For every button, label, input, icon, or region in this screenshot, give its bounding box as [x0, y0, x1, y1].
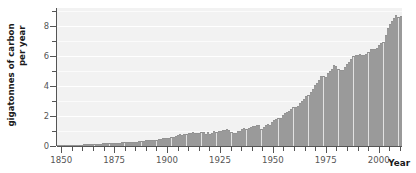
y-tick	[50, 146, 56, 147]
x-tick-label: 1900	[156, 155, 178, 165]
x-tick-minor	[156, 147, 157, 151]
x-tick-minor	[82, 147, 83, 151]
x-tick-label: 2000	[368, 155, 390, 165]
x-tick-minor	[231, 147, 232, 151]
plot-area	[57, 8, 402, 146]
x-tick-minor	[199, 147, 200, 151]
x-tick	[167, 147, 168, 153]
y-tick-minor	[52, 101, 56, 102]
x-tick-minor	[389, 147, 390, 151]
x-tick	[326, 147, 327, 153]
x-tick-minor	[72, 147, 73, 151]
x-tick-label: 1875	[103, 155, 125, 165]
y-axis-title-line1: gigatonnes of carbon	[6, 23, 17, 126]
y-axis-title-line2: per year	[17, 23, 28, 126]
x-tick-minor	[209, 147, 210, 151]
y-tick-label: 6	[35, 52, 49, 60]
y-tick	[50, 86, 56, 87]
y-tick-minor	[52, 11, 56, 12]
y-tick-minor	[52, 131, 56, 132]
x-tick-minor	[358, 147, 359, 151]
x-tick-label: 1975	[315, 155, 337, 165]
x-tick-minor	[283, 147, 284, 151]
x-axis-line	[57, 146, 402, 147]
y-tick-minor	[52, 71, 56, 72]
x-tick-label: 1850	[50, 155, 72, 165]
x-tick-minor	[241, 147, 242, 151]
y-tick	[50, 26, 56, 27]
x-tick-minor	[252, 147, 253, 151]
y-tick-label: 0	[35, 142, 49, 150]
x-tick	[379, 147, 380, 153]
x-tick	[273, 147, 274, 153]
y-tick	[50, 116, 56, 117]
y-tick-label: 2	[35, 112, 49, 120]
y-tick-label: 8	[35, 22, 49, 30]
x-tick-minor	[368, 147, 369, 151]
x-tick-minor	[146, 147, 147, 151]
x-tick-label: 1950	[262, 155, 284, 165]
x-tick-minor	[178, 147, 179, 151]
chart-figure: gigatonnes of carbon per year 02468 1850…	[0, 0, 416, 173]
y-tick-label: 4	[35, 82, 49, 90]
x-tick-minor	[294, 147, 295, 151]
x-tick-minor	[262, 147, 263, 151]
x-tick-label: 1925	[209, 155, 231, 165]
y-axis-line	[56, 8, 57, 146]
x-tick	[61, 147, 62, 153]
y-axis-title: gigatonnes of carbon per year	[0, 0, 34, 150]
bar-series	[57, 8, 402, 146]
x-tick-minor	[336, 147, 337, 151]
x-tick-minor	[188, 147, 189, 151]
bar	[400, 16, 402, 147]
x-tick-minor	[104, 147, 105, 151]
x-axis-title: Year	[388, 158, 410, 168]
x-tick	[220, 147, 221, 153]
x-tick-minor	[400, 147, 401, 151]
x-tick-minor	[305, 147, 306, 151]
y-axis-tick-labels: 02468	[30, 0, 49, 173]
y-tick-minor	[52, 41, 56, 42]
x-tick-minor	[347, 147, 348, 151]
x-tick-minor	[93, 147, 94, 151]
x-tick-minor	[125, 147, 126, 151]
x-tick-minor	[315, 147, 316, 151]
x-tick-minor	[135, 147, 136, 151]
x-tick	[114, 147, 115, 153]
y-tick	[50, 56, 56, 57]
